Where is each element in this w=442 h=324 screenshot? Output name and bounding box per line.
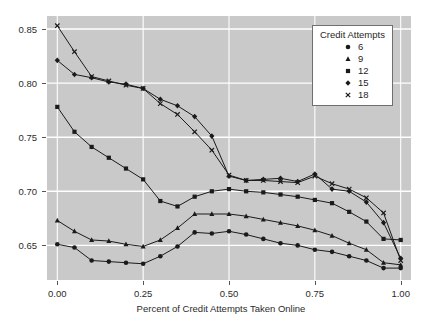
x-tick-label: 0.00 (37, 288, 77, 299)
legend-item-label: 15 (358, 77, 369, 89)
y-tick-label: 0.80 (3, 78, 37, 89)
y-tick-label: 0.75 (3, 132, 37, 143)
chart-container: 0.850.800.750.700.65 0.000.250.500.751.0… (0, 0, 442, 324)
triangle-marker-icon (342, 53, 354, 65)
x-tick-label: 0.50 (209, 288, 249, 299)
x-tick-mark (143, 281, 144, 285)
legend-item-12[interactable]: 12 (320, 65, 385, 77)
x-tick-mark (229, 281, 230, 285)
square-marker-icon (342, 65, 354, 77)
legend-item-label: 6 (358, 41, 363, 53)
x-tick-label: 0.25 (123, 288, 163, 299)
y-tick-mark (42, 191, 46, 192)
circle-marker-icon (342, 41, 354, 53)
y-tick-label: 0.70 (3, 186, 37, 197)
y-tick-mark (42, 83, 46, 84)
y-tick-mark (42, 137, 46, 138)
legend-item-label: 18 (358, 89, 369, 101)
x-tick-mark (57, 281, 58, 285)
y-tick-mark (42, 245, 46, 246)
legend-item-6[interactable]: 6 (320, 41, 385, 53)
legend: Credit Attempts 69121518 (312, 25, 393, 106)
legend-item-18[interactable]: 18 (320, 89, 385, 101)
x-tick-label: 1.00 (381, 288, 421, 299)
cross-marker-icon (342, 89, 354, 101)
legend-items: 69121518 (320, 41, 385, 101)
y-tick-mark (42, 29, 46, 30)
legend-item-9[interactable]: 9 (320, 53, 385, 65)
y-tick-label: 0.85 (3, 23, 37, 34)
x-tick-label: 0.75 (295, 288, 335, 299)
legend-item-15[interactable]: 15 (320, 77, 385, 89)
legend-title: Credit Attempts (320, 29, 385, 40)
legend-item-label: 12 (358, 65, 369, 77)
x-tick-mark (315, 281, 316, 285)
y-tick-label: 0.65 (3, 240, 37, 251)
x-tick-mark (401, 281, 402, 285)
diamond-marker-icon (342, 77, 354, 89)
x-axis-title: Percent of Credit Attempts Taken Online (0, 303, 442, 314)
legend-item-label: 9 (358, 53, 363, 65)
